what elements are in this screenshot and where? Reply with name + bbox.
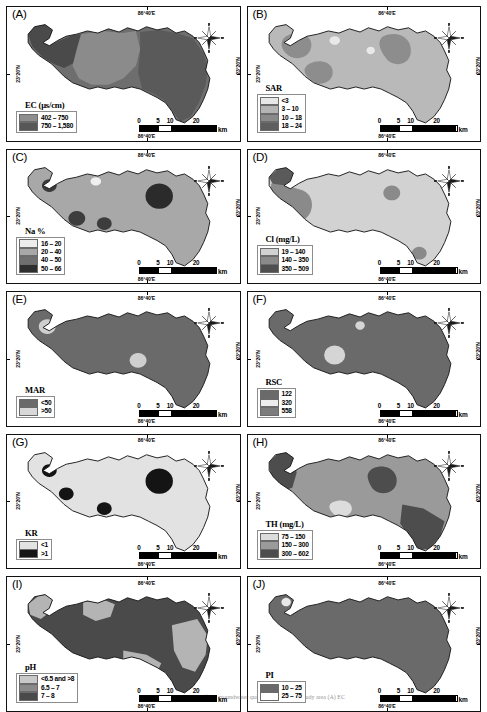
scale-tick-labels: 051020 <box>380 259 458 267</box>
coordinate-label-right: 23°20'N <box>235 57 241 75</box>
scale-tick-label: 0 <box>137 544 140 551</box>
scale-bar-graphic <box>139 552 217 559</box>
legend-title: Na % <box>25 226 65 236</box>
scale-bar: 051020km <box>139 259 217 274</box>
legend-swatch <box>19 684 38 693</box>
legend-item-label: 75 – 150 <box>282 533 306 541</box>
scale-bar-graphic <box>380 552 458 559</box>
legend-swatch <box>19 407 38 416</box>
map-region-dot-ne-big <box>145 468 172 493</box>
legend-item-label: 558 <box>282 407 292 415</box>
coordinate-label-top: 86°40'E <box>378 295 395 301</box>
scale-tick-label: 20 <box>193 117 200 124</box>
scale-tick-label: 20 <box>193 687 200 694</box>
scale-tick-label: 20 <box>193 544 200 551</box>
compass-rose-icon <box>194 308 224 338</box>
scale-tick-label: 0 <box>378 687 381 694</box>
graticule-tick-left <box>248 359 251 360</box>
coordinate-label-left: 23°20'N <box>255 635 261 653</box>
legend-item: 40 – 50 <box>19 256 61 264</box>
coordinate-label-top: 86°40'E <box>378 152 395 158</box>
legend-e: MAR<50>50 <box>16 385 55 419</box>
compass-rose-icon <box>434 451 464 481</box>
scale-unit-label: km <box>218 411 227 418</box>
graticule-tick-left <box>248 74 251 75</box>
scale-tick-labels: 051020 <box>380 544 458 552</box>
scale-tick-label: 10 <box>167 117 174 124</box>
legend-swatch <box>19 248 38 257</box>
legend-item-label: 6.5 – 7 <box>41 684 59 692</box>
legend-item: 50 – 66 <box>19 265 61 273</box>
legend-item-label: <50 <box>41 399 51 407</box>
legend-box: <33 – 1010 – 1818 – 24 <box>257 94 306 133</box>
legend-title: pH <box>25 662 78 672</box>
graticule-tick-left <box>248 216 251 217</box>
panel-label-f: (F) <box>253 293 267 305</box>
legend-title: KR <box>25 528 52 538</box>
legend-title: RSC <box>266 377 296 387</box>
legend-item: 25 – 75 <box>260 692 302 700</box>
scale-tick-label: 20 <box>193 402 200 409</box>
legend-box: <50>50 <box>16 396 55 418</box>
legend-swatch <box>260 256 279 265</box>
coordinate-label-top: 86°40'E <box>138 437 155 443</box>
legend-swatch <box>260 692 279 701</box>
legend-item: 3 – 10 <box>260 105 302 113</box>
legend-swatch <box>19 122 38 131</box>
legend-item-label: 19 – 140 <box>282 248 306 256</box>
scale-tick-label: 10 <box>167 687 174 694</box>
map-region-mid-light-spot <box>130 353 147 368</box>
scale-unit-label: km <box>459 553 468 560</box>
scale-tick-labels: 051020 <box>139 687 217 695</box>
legend-title: MAR <box>25 385 55 395</box>
scale-tick-label: 10 <box>167 402 174 409</box>
legend-h: TH (mg/L)75 – 150150 – 300300 – 602 <box>257 519 313 562</box>
map-panel-g: (G)86°40'E86°40'E23°20'N23°20'NKR<1>1051… <box>6 434 241 570</box>
coordinate-label-top: 86°40'E <box>378 10 395 16</box>
scale-unit-label: km <box>459 696 468 703</box>
scale-tick-label: 5 <box>397 259 400 266</box>
scale-bar-graphic <box>380 410 458 417</box>
panel-label-b: (B) <box>253 8 267 20</box>
scale-bar-graphic <box>139 695 217 702</box>
legend-item: 75 – 150 <box>260 533 309 541</box>
panel-label-i: (I) <box>12 578 22 590</box>
legend-item: <1 <box>19 541 48 549</box>
legend-item: >50 <box>19 407 51 415</box>
scale-unit-label: km <box>218 126 227 133</box>
legend-swatch <box>260 264 279 273</box>
scale-bar-graphic <box>380 125 458 132</box>
legend-title: EC (μs/cm) <box>25 100 77 110</box>
legend-item-label: <3 <box>282 97 289 105</box>
coordinate-label-right: 23°20'N <box>235 342 241 360</box>
legend-swatch <box>260 248 279 257</box>
legend-swatch <box>260 114 279 123</box>
legend-item-label: 3 – 10 <box>282 105 299 113</box>
legend-g: KR<1>1 <box>16 528 52 562</box>
coordinate-label-top: 86°40'E <box>138 152 155 158</box>
panel-label-d: (D) <box>253 151 268 163</box>
coordinate-label-left: 23°20'N <box>14 635 20 653</box>
coordinate-label-bottom: 86°40'E <box>138 133 155 139</box>
map-panel-c: (C)86°40'E86°40'E23°20'N23°20'NNa %16 – … <box>6 149 241 285</box>
compass-rose-icon <box>194 451 224 481</box>
scale-tick-label: 10 <box>407 259 414 266</box>
map-region-dot-s <box>97 217 112 230</box>
coordinate-label-top: 86°40'E <box>378 580 395 586</box>
map-region-dot-s <box>97 502 112 515</box>
legend-swatch <box>19 675 38 684</box>
legend-item-label: 10 – 25 <box>282 684 302 692</box>
map-region-dot-w <box>59 487 74 500</box>
coordinate-label-bottom: 86°40'E <box>138 276 155 282</box>
scale-unit-label: km <box>218 268 227 275</box>
legend-item: >1 <box>19 550 48 558</box>
scale-tick-label: 5 <box>156 117 159 124</box>
map-panel-a: (A)86°40'E86°40'E23°20'N23°20'NEC (μs/cm… <box>6 6 241 142</box>
map-panel-e: (E)86°40'E86°40'E23°20'N23°20'NMAR<50>50… <box>6 291 241 427</box>
legend-item: 558 <box>260 407 292 415</box>
map-region-small-n <box>355 321 365 329</box>
scale-tick-labels: 051020 <box>380 402 458 410</box>
watershed-fill <box>28 452 210 550</box>
panel-label-j: (J) <box>253 578 266 590</box>
map-region-spot-light-1 <box>329 36 340 44</box>
